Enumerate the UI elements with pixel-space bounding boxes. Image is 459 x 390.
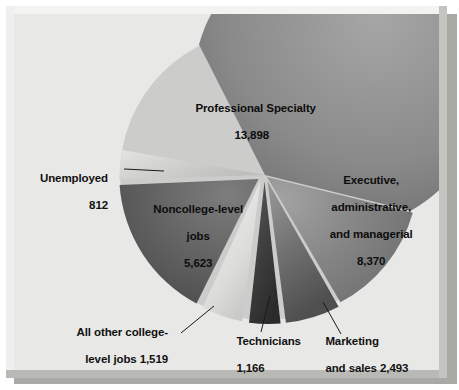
label-noncollege-value: 5,623 [184,257,212,269]
label-all-other-college-line2: level jobs 1,519 [85,353,168,365]
label-professional-specialty: Professional Specialty 13,898 [183,88,308,156]
label-noncollege-line2: jobs [187,230,210,242]
label-marketing-line1: Marketing [325,335,378,347]
frame-bevel-right [439,6,447,378]
label-technicians: Technicians 1,166 [224,321,306,389]
frame-bevel-top [6,6,447,14]
frame-drop-shadow-right [447,14,457,384]
label-unemployed-line1: Unemployed [40,172,108,184]
label-executive-line1: Executive, [343,174,399,186]
label-marketing-and-sales: Marketing and sales 2,493 [313,321,433,389]
label-noncollege-line1: Noncollege-level [153,203,243,215]
label-marketing-line2: and sales 2,493 [325,362,408,374]
label-noncollege-level-jobs: Noncollege-level jobs 5,623 [135,189,249,284]
label-professional-specialty-value: 13,898 [234,129,269,141]
frame-bevel-left [6,6,14,378]
label-executive-line2: administrative, [331,201,411,213]
label-all-other-college-line1: All other college- [77,326,169,338]
leader-line-all-other-college [181,306,214,333]
label-executive-value: 8,370 [357,255,385,267]
label-unemployed-value: 812 [89,199,108,211]
label-technicians-value: 1,166 [236,362,264,374]
label-unemployed: Unemployed 812 [18,158,108,226]
label-all-other-college-level-jobs: All other college- level jobs 1,519 [36,312,168,380]
label-professional-specialty-line1: Professional Specialty [195,102,316,114]
label-executive: Executive, administrative, and manageria… [306,160,424,282]
pie-chart-figure: Professional Specialty 13,898 Executive,… [0,0,459,390]
label-technicians-line1: Technicians [236,335,301,347]
label-executive-line3: and managerial [330,228,413,240]
